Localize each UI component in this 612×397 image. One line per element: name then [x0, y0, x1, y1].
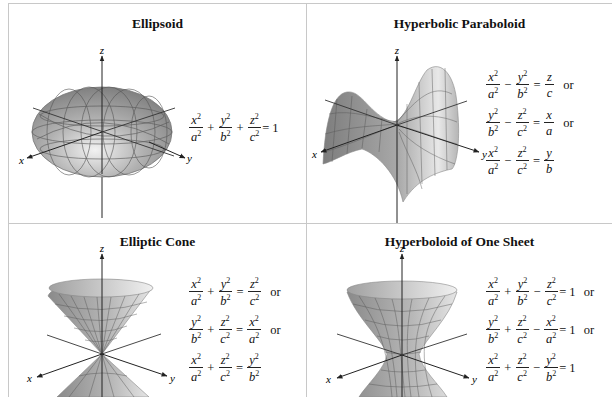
- cell-hyperboloid-one-sheet: Hyperboloid of One Sheet z x y x2a2+y2b2…: [307, 224, 612, 397]
- z-axis-label: z: [99, 44, 105, 56]
- operator: +: [504, 323, 511, 338]
- equation: x2a2+z2c2=y2b2: [188, 349, 281, 387]
- fraction: x2a2: [486, 353, 500, 384]
- x-axis-label: x: [18, 154, 24, 166]
- or-connector: or: [584, 323, 594, 338]
- fraction: z2c2: [515, 353, 529, 384]
- fraction: z2c2: [515, 315, 529, 346]
- fraction: z2c2: [545, 277, 559, 308]
- fraction: y2b2: [247, 353, 261, 384]
- operator: =: [237, 285, 244, 300]
- x-axis-label: x: [311, 148, 317, 160]
- operator: −: [504, 116, 511, 131]
- equations: x2a2+y2b2+z2c2 = 1: [188, 109, 279, 147]
- operator: −: [533, 361, 540, 376]
- equation-rhs: = 1: [262, 121, 278, 136]
- fraction: y2b2: [515, 70, 529, 101]
- equations: x2a2+y2b2=z2c2ory2b2+z2c2=x2a2orx2a2+z2c…: [188, 273, 281, 387]
- fraction: x2a2: [189, 113, 203, 144]
- fraction: x2a2: [486, 277, 500, 308]
- or-connector: or: [563, 78, 573, 93]
- z-axis-label: z: [399, 242, 405, 254]
- operator: −: [534, 285, 541, 300]
- equations: x2a2−y2b2=zcory2b2−z2c2=xaorx2a2−z2c2=yb: [485, 66, 574, 180]
- fraction: z2c2: [248, 113, 262, 144]
- fraction: x2a2: [544, 315, 558, 346]
- fraction: y2b2: [189, 315, 203, 346]
- operator: =: [533, 116, 540, 131]
- fraction: z2c2: [515, 146, 529, 177]
- fraction: xa: [544, 109, 554, 138]
- cell-hyperbolic-paraboloid: Hyperbolic Paraboloid z x y: [307, 4, 612, 223]
- operator: +: [504, 361, 511, 376]
- fraction: x2a2: [486, 70, 500, 101]
- equation: y2b2+z2c2=x2a2or: [188, 311, 281, 349]
- equation: x2a2+y2b2=z2c2or: [188, 273, 281, 311]
- equation: y2b2+z2c2−x2a2 = 1or: [485, 311, 594, 349]
- operator: =: [236, 323, 243, 338]
- or-connector: or: [270, 323, 280, 338]
- fraction: y2b2: [486, 108, 500, 139]
- x-axis-label: x: [26, 372, 32, 384]
- fraction: x2a2: [486, 146, 500, 177]
- operator: +: [207, 361, 214, 376]
- z-axis-label: z: [99, 242, 105, 254]
- or-connector: or: [563, 116, 573, 131]
- equation-rhs: = 1: [559, 323, 575, 338]
- fraction: z2c2: [248, 277, 262, 308]
- operator: +: [207, 323, 214, 338]
- fraction: z2c2: [218, 315, 232, 346]
- fraction: zc: [545, 71, 555, 100]
- equations: x2a2+y2b2−z2c2 = 1ory2b2+z2c2−x2a2 = 1or…: [485, 273, 594, 387]
- operator: −: [504, 154, 511, 169]
- fraction: z2c2: [218, 353, 232, 384]
- fraction: y2b2: [218, 277, 232, 308]
- or-connector: or: [270, 285, 280, 300]
- equation-rhs: = 1: [559, 361, 575, 376]
- fraction: y2b2: [515, 277, 529, 308]
- fraction: x2a2: [189, 277, 203, 308]
- equation: x2a2−z2c2=yb: [485, 142, 574, 180]
- equation: x2a2+z2c2−y2b2 = 1: [485, 349, 594, 387]
- x-axis-label: x: [325, 373, 331, 385]
- z-axis-label: z: [394, 44, 400, 56]
- fraction: y2b2: [218, 113, 232, 144]
- y-axis-label: y: [186, 152, 192, 164]
- equation-rhs: = 1: [559, 285, 575, 300]
- operator: +: [504, 285, 511, 300]
- fraction: y2b2: [544, 353, 558, 384]
- fraction: z2c2: [515, 108, 529, 139]
- equation: x2a2+y2b2−z2c2 = 1or: [485, 273, 594, 311]
- equation: x2a2+y2b2+z2c2 = 1: [188, 109, 279, 147]
- fraction: yb: [544, 147, 554, 176]
- fraction: x2a2: [247, 315, 261, 346]
- or-connector: or: [584, 285, 594, 300]
- equation: y2b2−z2c2=xaor: [485, 104, 574, 142]
- cell-elliptic-cone: Elliptic Cone z x y: [9, 224, 306, 397]
- fraction: y2b2: [486, 315, 500, 346]
- operator: −: [504, 78, 511, 93]
- y-axis-label: y: [471, 373, 477, 385]
- operator: =: [236, 361, 243, 376]
- cell-ellipsoid: Ellipsoid z x y x2a2+y2b2+z2c2 = 1: [9, 4, 306, 223]
- operator: =: [534, 78, 541, 93]
- operator: +: [237, 121, 244, 136]
- equation: x2a2−y2b2=zcor: [485, 66, 574, 104]
- operator: +: [207, 285, 214, 300]
- operator: −: [533, 323, 540, 338]
- operator: +: [207, 121, 214, 136]
- operator: =: [533, 154, 540, 169]
- y-axis-label: y: [169, 372, 175, 384]
- fraction: x2a2: [189, 353, 203, 384]
